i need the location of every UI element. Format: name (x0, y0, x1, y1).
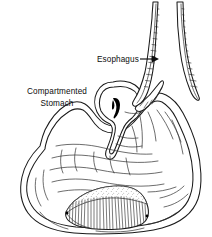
compartmented-stomach-label-line2: Stomach (40, 99, 73, 108)
esophagus-right-wall (177, 2, 199, 100)
anatomical-diagram: Esophagus Compartmented Stomach (0, 0, 212, 237)
figure-container: Esophagus Compartmented Stomach (0, 0, 212, 237)
esophagus-arrow-icon (152, 55, 159, 62)
compartmented-stomach-label-line1: Compartmented (27, 87, 87, 96)
esophagus-label-text: Esophagus (97, 55, 139, 64)
